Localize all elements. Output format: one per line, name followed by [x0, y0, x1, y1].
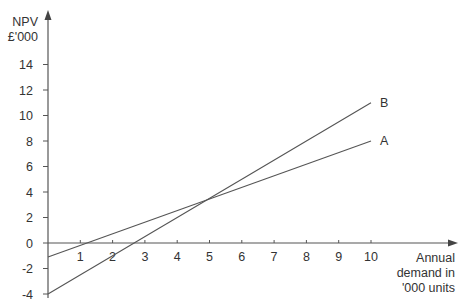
svg-text:NPV: NPV — [12, 15, 38, 29]
y-tick-label: 2 — [26, 211, 33, 225]
svg-text:'000 units: '000 units — [402, 281, 455, 295]
x-axis-label: Annualdemand in'000 units — [397, 251, 455, 295]
x-tick-label: 6 — [238, 250, 245, 264]
series-label-B: B — [380, 96, 388, 110]
y-tick-label: 6 — [26, 160, 33, 174]
x-tick-label: 3 — [141, 250, 148, 264]
y-tick-label: 4 — [26, 186, 33, 200]
series-line-B — [48, 103, 371, 294]
x-tick-label: 4 — [174, 250, 181, 264]
y-tick-label: -4 — [22, 288, 33, 302]
y-tick-label: 14 — [19, 58, 33, 72]
svg-text:£'000: £'000 — [8, 30, 38, 44]
y-axis-ticks: -4-202468101214 — [19, 58, 48, 302]
series-labels: AB — [380, 96, 389, 148]
x-tick-label: 7 — [271, 250, 278, 264]
svg-text:demand in: demand in — [397, 266, 455, 280]
y-tick-label: -2 — [22, 262, 33, 276]
x-axis-arrow-icon — [448, 240, 458, 247]
y-axis-arrow-icon — [45, 10, 52, 20]
npv-chart: -4-202468101214 12345678910 NPV£'000 Ann… — [0, 0, 469, 308]
x-tick-label: 1 — [77, 250, 84, 264]
y-tick-label: 8 — [26, 135, 33, 149]
y-tick-label: 0 — [26, 237, 33, 251]
x-tick-label: 10 — [364, 250, 378, 264]
y-tick-label: 10 — [19, 109, 33, 123]
x-axis-ticks: 12345678910 — [77, 240, 378, 264]
series-label-A: A — [380, 134, 389, 148]
y-tick-label: 12 — [19, 84, 33, 98]
x-tick-label: 9 — [335, 250, 342, 264]
x-tick-label: 5 — [206, 250, 213, 264]
svg-text:Annual: Annual — [416, 251, 455, 265]
series-lines — [48, 103, 371, 294]
x-tick-label: 8 — [303, 250, 310, 264]
y-axis-label: NPV£'000 — [8, 15, 39, 44]
